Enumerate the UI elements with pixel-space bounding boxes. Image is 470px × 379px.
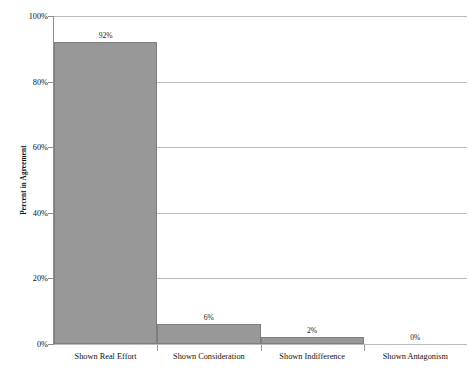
bar-value-label: 92% [99, 31, 113, 40]
bar [54, 42, 157, 344]
y-tick-label: 40% [14, 208, 48, 217]
y-tick-label: 20% [14, 274, 48, 283]
x-axis-category-label: Shown Indifference [279, 352, 345, 361]
y-tick-label: 60% [14, 143, 48, 152]
x-axis-category-label: Shown Real Effort [75, 352, 137, 361]
x-axis-category-label: Shown Antagonism [383, 352, 448, 361]
y-tick-label: 100% [14, 12, 48, 21]
y-tick-label: 80% [14, 77, 48, 86]
x-axis-category-label: Shown Consideration [173, 352, 245, 361]
x-tick-mark [261, 345, 262, 351]
bar-value-label: 2% [307, 326, 317, 335]
bar-value-label: 6% [204, 313, 214, 322]
y-tick-mark [48, 344, 54, 345]
y-tick-mark [48, 16, 54, 17]
y-axis-title: Percent in Agreement [20, 100, 28, 260]
gridline [54, 16, 467, 17]
bar-chart: Percent in Agreement 0%20%40%60%80%100% … [0, 0, 470, 379]
y-tick-label: 0% [14, 340, 48, 349]
bar [261, 337, 364, 344]
x-tick-mark [157, 345, 158, 351]
bar-value-label: 0% [410, 333, 420, 342]
bar [157, 324, 260, 344]
x-tick-mark [364, 345, 365, 351]
